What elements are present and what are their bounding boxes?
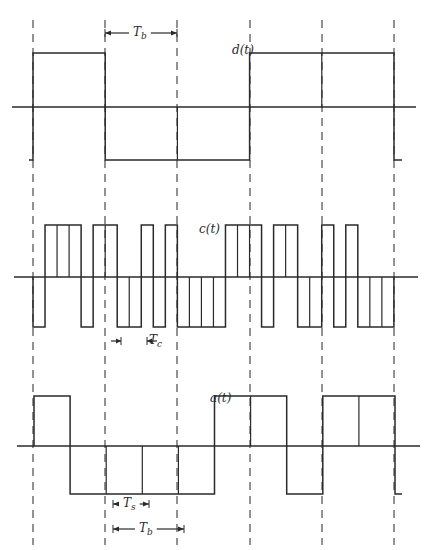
label-bit-period-top: Tb: [133, 26, 147, 38]
label-chip-period: Tc: [149, 334, 162, 346]
data-signal-d-waveform: [12, 53, 416, 160]
label-symbol-period: Ts: [123, 497, 136, 509]
spread-spectrum-waveform-diagram: [0, 0, 432, 550]
chip-signal-c-waveform: [14, 225, 418, 327]
waveform-path: [34, 396, 402, 494]
label-d-of-t: d(t): [232, 44, 254, 56]
spread-signal-a-waveform: [17, 396, 420, 494]
label-c-of-t: c(t): [199, 223, 220, 235]
label-a-of-t: a(t): [210, 392, 231, 404]
label-bit-period-bottom: Tb: [139, 522, 153, 534]
